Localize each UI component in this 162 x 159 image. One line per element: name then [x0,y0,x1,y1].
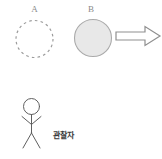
filled-circle-b [75,20,112,57]
figure-left-arm [22,117,32,125]
figure-right-arm [32,117,42,125]
diagram-canvas: A B 관찰자 [0,0,162,159]
circle-b-label: B [88,4,94,14]
right-arrow-icon [116,27,160,46]
figure-right-leg [32,133,41,148]
physics-diagram: A B 관찰자 [0,0,162,159]
circle-a-label: A [31,4,38,14]
dashed-circle-a [16,21,53,58]
figure-left-leg [23,133,32,148]
observer-stick-figure [22,99,41,149]
observer-label: 관찰자 [53,130,75,140]
figure-head [24,99,40,115]
